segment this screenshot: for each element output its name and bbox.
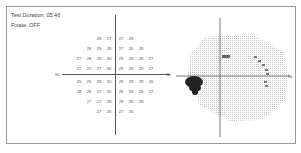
field-axis-label-right: 90 [288, 74, 292, 79]
field-map-graphic [0, 0, 301, 153]
